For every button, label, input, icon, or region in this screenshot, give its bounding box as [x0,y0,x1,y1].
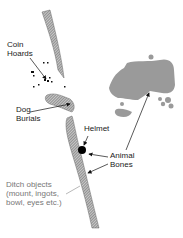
dog-burial-ditch [45,94,74,112]
animal-bones-arrow-3 [126,93,149,150]
helmet-findspot [78,146,86,154]
ditch-objects-leader [66,186,80,194]
animal-bones-arrow-1 [89,154,108,157]
coin-hoards-arrow [30,58,46,79]
animal-bones-label: Animal Bones [110,151,134,169]
helmet-label: Helmet [84,124,109,133]
enclosure-building [109,55,175,117]
ditch-objects-label: Ditch objects (mount, ingots, bowl, eyes… [6,180,62,207]
animal-bones-arrow-2 [88,164,108,173]
upper-ditch-segment [42,10,64,78]
helmet-arrow [84,136,88,145]
dog-burials-label: Dog Burials [16,105,40,123]
coin-hoards-label: Coin Hoards [7,40,33,58]
